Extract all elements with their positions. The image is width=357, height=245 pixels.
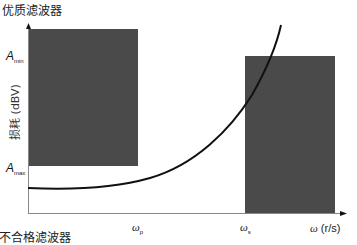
diagram-caption: 不合格滤波器 (0, 228, 71, 245)
omega-p-label: ωp (132, 221, 143, 235)
x-axis-arrow-icon (340, 211, 347, 216)
a-min-sub: min (14, 58, 24, 64)
a-max-label: Amax (6, 161, 25, 176)
omega-s-label: ωs (240, 221, 251, 235)
omega-symbol: ω (132, 221, 140, 233)
a-symbol: A (6, 161, 14, 175)
omega-symbol: ω (240, 221, 248, 233)
omega-p-sub: p (140, 229, 143, 235)
stopband-forbidden-region (245, 56, 335, 213)
a-max-sub: max (14, 170, 25, 176)
y-axis-arrow-icon (26, 23, 31, 29)
omega-s-sub: s (248, 229, 251, 235)
passband-forbidden-region (29, 29, 138, 166)
a-symbol: A (6, 49, 14, 63)
x-axis-label: ω (r/s) (310, 222, 340, 234)
omega-symbol: ω (310, 222, 318, 234)
a-min-label: Amin (6, 49, 24, 64)
y-axis-label: 损耗 (dBV) (6, 84, 22, 140)
x-axis-unit: (r/s) (321, 222, 341, 234)
